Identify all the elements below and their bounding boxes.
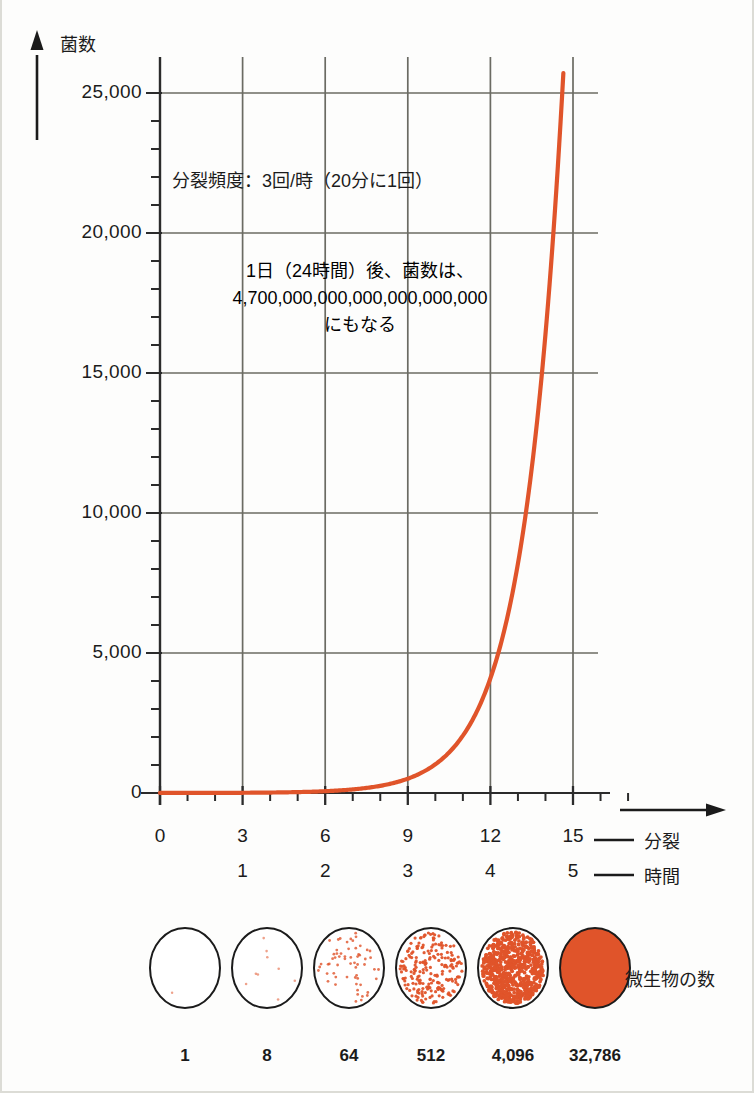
y-tick-label-5000: 5,000 bbox=[30, 641, 142, 663]
x-tick-label-hours-1: 1 bbox=[213, 860, 273, 882]
figure-page: 菌数 05,00010,00015,00020,00025,000 036912… bbox=[0, 0, 754, 1093]
bacteria-growth-chart bbox=[0, 0, 754, 1093]
y-tick-label-15000: 15,000 bbox=[30, 361, 142, 383]
x-tick-label-hours-4: 4 bbox=[460, 860, 520, 882]
y-axis-title: 菌数 bbox=[60, 30, 96, 56]
colony-dish-4096 bbox=[478, 928, 548, 1008]
annotation-one-day-line3: にもなる bbox=[150, 312, 570, 339]
x-tick-label-hours-5: 5 bbox=[543, 860, 603, 882]
colony-caption: 微生物の数 bbox=[625, 965, 715, 991]
x-tick-label-divisions-12: 12 bbox=[460, 825, 520, 847]
colony-count-label-4096: 4,096 bbox=[468, 1046, 558, 1066]
colony-dish-512 bbox=[396, 928, 466, 1008]
x-tick-label-divisions-15: 15 bbox=[543, 825, 603, 847]
annotation-one-day-line2: 4,700,000,000,000,000,000,000 bbox=[150, 285, 570, 312]
colony-count-label-8: 8 bbox=[222, 1046, 312, 1066]
colony-count-label-1: 1 bbox=[140, 1046, 230, 1066]
x-tick-label-divisions-9: 9 bbox=[378, 825, 438, 847]
y-tick-label-10000: 10,000 bbox=[30, 501, 142, 523]
x-tick-label-divisions-3: 3 bbox=[213, 825, 273, 847]
colony-count-label-32786: 32,786 bbox=[550, 1046, 640, 1066]
colony-dish-64 bbox=[314, 928, 384, 1008]
y-tick-label-0: 0 bbox=[30, 781, 142, 803]
colony-dish-8 bbox=[232, 928, 302, 1008]
x-tick-label-hours-2: 2 bbox=[295, 860, 355, 882]
colony-count-label-512: 512 bbox=[386, 1046, 476, 1066]
colony-count-label-64: 64 bbox=[304, 1046, 394, 1066]
x-tick-label-divisions-6: 6 bbox=[295, 825, 355, 847]
x-axis-arrow bbox=[620, 804, 726, 817]
colony-dish-row bbox=[150, 928, 630, 1008]
y-axis-minor-ticks bbox=[151, 121, 160, 765]
x-axis-row-label-hours: 時間 bbox=[644, 862, 680, 888]
annotation-one-day-line1: 1日（24時間）後、菌数は、 bbox=[150, 258, 570, 285]
annotation-one-day-total: 1日（24時間）後、菌数は、 4,700,000,000,000,000,000… bbox=[150, 258, 570, 339]
x-axis-row-label-divisions: 分裂 bbox=[644, 827, 680, 853]
y-tick-label-20000: 20,000 bbox=[30, 221, 142, 243]
y-tick-label-25000: 25,000 bbox=[30, 81, 142, 103]
colony-dish-32786 bbox=[560, 928, 630, 1008]
annotation-division-rate: 分裂頻度：3回/時（20分に1回） bbox=[172, 168, 572, 195]
x-tick-label-hours-3: 3 bbox=[378, 860, 438, 882]
x-tick-label-divisions-0: 0 bbox=[130, 825, 190, 847]
colony-dish-1 bbox=[150, 928, 220, 1008]
